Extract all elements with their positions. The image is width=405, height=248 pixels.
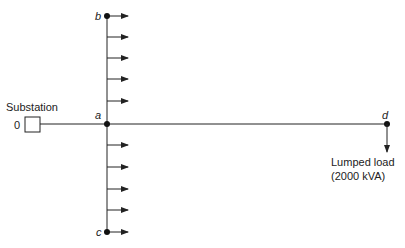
distributed-loads-upper xyxy=(107,16,128,101)
lumped-load-label: Lumped load xyxy=(331,156,395,168)
node-0-label: 0 xyxy=(14,119,20,131)
node-a xyxy=(104,121,110,127)
node-c xyxy=(104,229,110,235)
node-c-label: c xyxy=(96,226,102,238)
node-a-label: a xyxy=(95,109,101,121)
lumped-load-rating: (2000 kVA) xyxy=(331,170,385,182)
substation-label: Substation xyxy=(6,101,58,113)
node-b xyxy=(104,13,110,19)
substation-box xyxy=(25,117,40,132)
distributed-loads-lower xyxy=(107,145,128,232)
node-b-label: b xyxy=(95,10,101,22)
node-d-label: d xyxy=(382,109,389,121)
feeder-diagram: Substation 0 b a c d Lumped load (2000 k… xyxy=(0,0,405,248)
